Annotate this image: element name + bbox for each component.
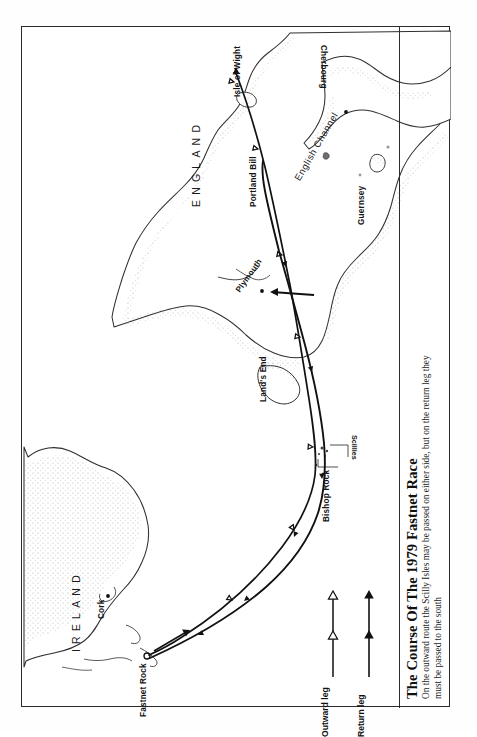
legend-label-return: Return leg: [356, 695, 366, 737]
legend-return-symbol: [358, 587, 380, 683]
legend-label-outward: Outward leg: [320, 687, 330, 737]
label-bishop-rock: Bishop Rock: [322, 470, 331, 522]
bishop-rock-leader: [315, 464, 317, 466]
scilly-isles: [318, 445, 348, 467]
label-scillies: Scillies: [350, 435, 359, 460]
legend-outward-symbol: [322, 587, 344, 683]
cork-marker: [106, 594, 110, 598]
legend: Outward leg Return leg: [314, 587, 384, 737]
label-isle-of-wight: Isle of Wight: [234, 46, 243, 97]
ireland-landmass: [24, 447, 157, 670]
label-cherbourg: Cherbourg: [319, 45, 328, 89]
caption-divider: [399, 27, 400, 708]
alderney-islet: [323, 153, 329, 160]
label-england: ENGLAND: [190, 120, 202, 207]
label-cork: Cork: [97, 600, 106, 619]
figure-caption-text: On the outward route the Scilly Isles ma…: [421, 347, 445, 699]
figure-frame: ENGLAND IRELAND English Channel Isle of …: [21, 26, 450, 707]
map-illustration: [22, 27, 451, 708]
label-guernsey: Guernsey: [357, 186, 366, 225]
figure-caption: The Course Of The 1979 Fastnet Race On t…: [404, 139, 445, 699]
label-fastnet-rock: Fastnet Rock: [140, 663, 149, 717]
label-lands-end: Land's End: [260, 356, 268, 402]
label-portland-bill: Portland Bill: [249, 156, 258, 207]
label-ireland: IRELAND: [70, 570, 82, 652]
plymouth-marker: [260, 289, 264, 293]
label-isle-of-wight-text: Isle of Wight: [233, 46, 242, 97]
figure-title: The Course Of The 1979 Fastnet Race: [404, 139, 420, 699]
